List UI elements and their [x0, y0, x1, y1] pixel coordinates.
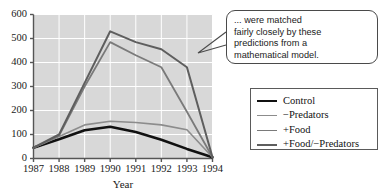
y-tick-label-0: 0	[0, 153, 27, 164]
y-tick-label-3: 300	[0, 81, 27, 92]
legend-label-2: +Food	[283, 125, 311, 136]
annotation-line-2: predictions from a	[234, 38, 371, 50]
annotation-callout: ... were matched fairly closely by these…	[226, 10, 378, 64]
y-tick-label-5: 500	[0, 33, 27, 44]
legend-item-1: −Predators	[257, 109, 329, 123]
legend-swatch-1	[257, 115, 277, 116]
annotation-line-1: fairly closely by these	[234, 27, 371, 39]
annotation-line-3: mathematical model.	[234, 50, 371, 62]
y-tick-label-6: 600	[0, 9, 27, 20]
legend-swatch-0	[257, 100, 277, 102]
legend-item-0: Control	[257, 94, 315, 108]
legend-label-0: Control	[283, 96, 315, 107]
legend: Control−Predators+Food+Food/−Predators	[250, 88, 378, 150]
legend-label-3: +Food/−Predators	[283, 139, 359, 150]
legend-item-2: +Food	[257, 123, 311, 137]
legend-swatch-2	[257, 130, 277, 131]
y-tick-label-4: 400	[0, 57, 27, 68]
y-tick-label-1: 100	[0, 129, 27, 140]
x-tick-label-7: 1994	[196, 164, 230, 175]
x-axis-title: Year	[63, 178, 183, 190]
annotation-line-0: ... were matched	[234, 15, 371, 27]
legend-item-3: +Food/−Predators	[257, 138, 359, 152]
legend-label-1: −Predators	[283, 110, 329, 121]
line-chart: 0100200300400500600 19871988198919901991…	[0, 0, 388, 195]
legend-swatch-3	[257, 144, 277, 146]
y-tick-label-2: 200	[0, 105, 27, 116]
